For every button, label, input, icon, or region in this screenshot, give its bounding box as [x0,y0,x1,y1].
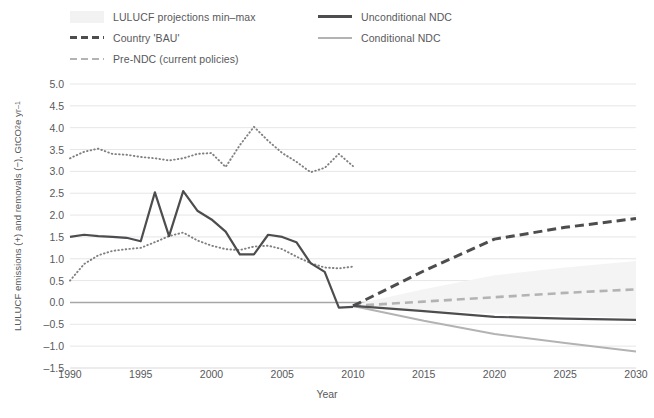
x-axis-tick-label: 2015 [412,368,435,380]
y-axis-tick-label: 4.5 [24,100,64,112]
x-axis-tick-label: 2000 [200,368,223,380]
y-axis-tick-label: 0.0 [24,296,64,308]
x-axis-tick-label: 2030 [624,368,647,380]
y-axis-tick-label: –0.5 [24,318,64,330]
legend-label: Unconditional NDC [361,11,452,23]
y-axis-tick-label: 1.0 [24,253,64,265]
y-axis-title-tail: e yr [12,109,23,125]
y-axis-tick-label: 2.5 [24,187,64,199]
legend-column-right: Unconditional NDC Conditional NDC [318,6,578,48]
x-axis-tick-label: 2025 [554,368,577,380]
x-axis-tick-label: 1990 [58,368,81,380]
legend-item-unconditional-ndc[interactable]: Unconditional NDC [318,6,578,27]
legend-dashed-light-line-icon [70,53,104,64]
y-axis-tick-label: 2.0 [24,209,64,221]
legend-solid-light-line-icon [318,32,352,43]
legend-item-conditional-ndc[interactable]: Conditional NDC [318,27,578,48]
chart-legend: LULUCF projections min–max Country 'BAU'… [70,6,630,68]
x-axis-tick-label: 2005 [271,368,294,380]
legend-item-pre-ndc[interactable]: Pre-NDC (current policies) [70,48,320,69]
y-axis-tick-label: 3.0 [24,165,64,177]
legend-solid-dark-line-icon [318,11,352,22]
legend-column-left: LULUCF projections min–max Country 'BAU'… [70,6,320,69]
y-axis-title-sub: 2 [14,125,21,129]
legend-item-lulucf-minmax[interactable]: LULUCF projections min–max [70,6,320,27]
legend-swatch-icon [70,11,104,23]
x-axis-tick-label: 2020 [483,368,506,380]
y-axis-tick-label: 3.5 [24,144,64,156]
x-axis-title: Year [0,388,654,400]
y-axis-tick-label: –1.0 [24,340,64,352]
y-axis-tick-label: 1.5 [24,231,64,243]
x-axis-tick-label: 2010 [341,368,364,380]
series-line [70,233,353,281]
series-line [70,191,353,308]
legend-label: Conditional NDC [361,32,441,44]
legend-label: Pre-NDC (current policies) [113,53,239,65]
y-axis-title-text: LULUCF emissions (+) and removals (−), G… [12,129,23,331]
y-axis-tick-label: 0.5 [24,275,64,287]
x-axis-tick-label: 1995 [129,368,152,380]
legend-dashed-dark-line-icon [70,32,104,43]
y-axis-title-sup: –1 [14,101,21,109]
legend-item-country-bau[interactable]: Country 'BAU' [70,27,320,48]
y-axis-tick-label: 5.0 [24,78,64,90]
legend-label: Country 'BAU' [113,32,180,44]
y-axis-tick-labels: 5.04.54.03.53.02.52.01.51.00.50.0–0.5–1.… [24,0,64,418]
x-axis-tick-labels: 199019952000200520102015202020252030 [0,368,654,384]
y-axis-tick-label: 4.0 [24,122,64,134]
chart-root: LULUCF projections min–max Country 'BAU'… [0,0,654,418]
legend-label: LULUCF projections min–max [113,11,256,23]
